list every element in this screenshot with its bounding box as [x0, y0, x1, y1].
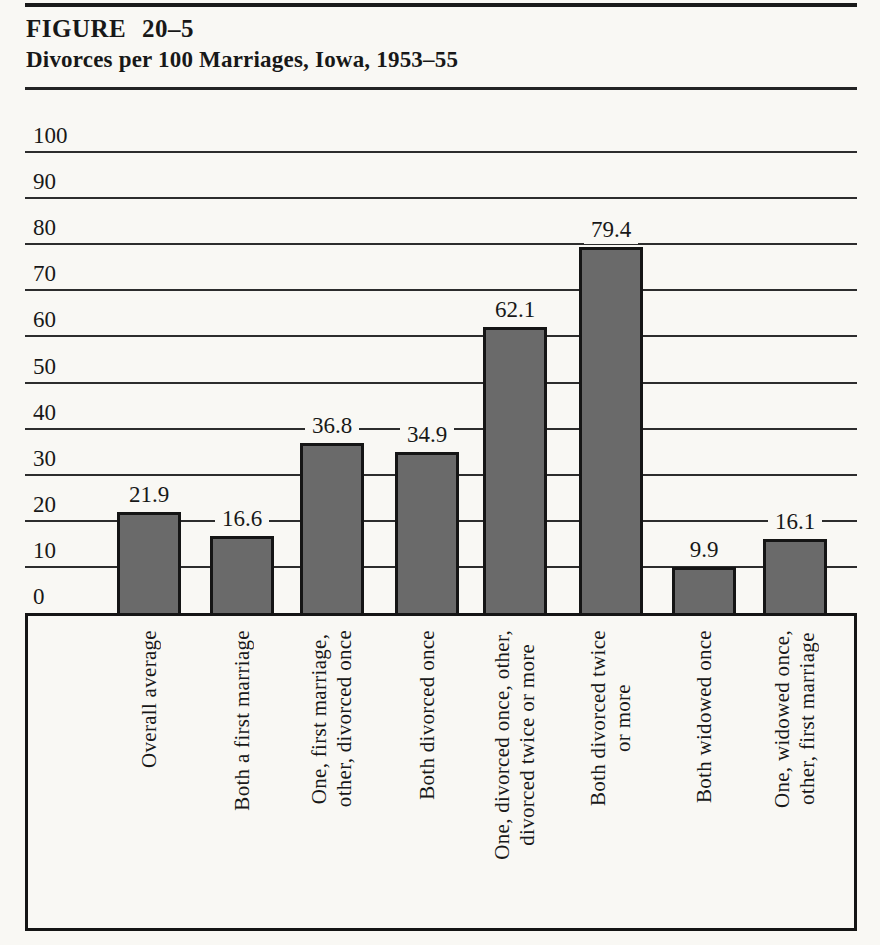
y-axis-tick-label: 100 [33, 123, 68, 149]
y-axis-tick-label: 0 [33, 584, 45, 610]
bar [117, 512, 181, 616]
gridline-70 [25, 289, 857, 291]
bar-value-label: 79.4 [584, 216, 638, 244]
category-label: One, divorced once, other, divorced twic… [490, 630, 540, 860]
category-label: Both a first marriage [230, 630, 255, 811]
y-axis-tick-label: 10 [33, 538, 56, 564]
y-axis-tick-label: 20 [33, 492, 56, 518]
bar-value-label: 16.1 [768, 508, 822, 536]
bar [483, 327, 547, 616]
gridline-80 [25, 243, 857, 245]
y-axis-tick-label: 60 [33, 307, 56, 333]
category-label: One, first marriage, other, divorced onc… [307, 630, 357, 807]
category-label: Both divorced once [415, 630, 440, 800]
gridline-90 [25, 197, 857, 199]
bar-value-label: 62.1 [488, 296, 542, 324]
y-axis-tick-label: 40 [33, 400, 56, 426]
gridline-50 [25, 382, 857, 384]
bar-value-label: 21.9 [122, 481, 176, 509]
bar [300, 443, 364, 616]
figure-title: Divorces per 100 Marriages, Iowa, 1953–5… [26, 47, 458, 73]
bar [672, 567, 736, 616]
category-label: Both widowed once [692, 630, 717, 803]
y-axis-tick-label: 50 [33, 354, 56, 380]
bar [210, 536, 274, 616]
figure-20-5: FIGURE 20–5 Divorces per 100 Marriages, … [0, 0, 880, 945]
figure-label: FIGURE 20–5 [26, 15, 194, 43]
y-axis-tick-label: 90 [33, 169, 56, 195]
y-axis-tick-label: 80 [33, 215, 56, 241]
bar-value-label: 34.9 [400, 421, 454, 449]
bar-value-label: 9.9 [683, 536, 726, 564]
category-label: One, widowed once, other, first marriage [770, 630, 820, 808]
bar-value-label: 36.8 [305, 412, 359, 440]
bar-value-label: 16.6 [215, 505, 269, 533]
gridline-60 [25, 335, 857, 337]
category-label: Overall average [137, 630, 162, 768]
y-axis-tick-label: 70 [33, 261, 56, 287]
bar [395, 452, 459, 616]
top-rule-thick [25, 3, 857, 7]
category-label-box: Overall averageBoth a first marriageOne,… [25, 613, 857, 931]
category-label: Both divorced twice or more [586, 630, 636, 806]
y-axis-tick-label: 30 [33, 446, 56, 472]
bar [579, 247, 643, 616]
gridline-100 [25, 151, 857, 153]
header-rule-thin [25, 87, 857, 90]
bar [763, 539, 827, 616]
